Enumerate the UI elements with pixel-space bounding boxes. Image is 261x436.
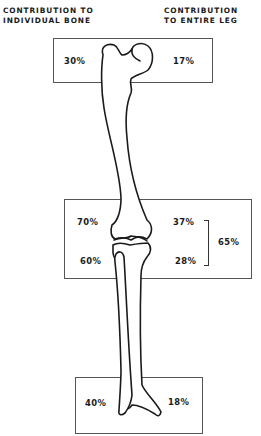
proximal-tibia-individual-pct: 60%	[80, 256, 101, 266]
leg-bones-illustration	[0, 0, 261, 436]
femur-icon	[102, 44, 153, 240]
distal-tibia-individual-pct: 40%	[85, 398, 106, 408]
knee-combined-entire-pct: 65%	[218, 237, 239, 247]
proximal-femur-individual-pct: 30%	[64, 56, 85, 66]
proximal-femur-entire-pct: 17%	[173, 56, 194, 66]
proximal-tibia-entire-pct: 28%	[175, 256, 196, 266]
distal-femur-entire-pct: 37%	[173, 217, 194, 227]
distal-tibia-entire-pct: 18%	[168, 397, 189, 407]
distal-femur-individual-pct: 70%	[77, 217, 98, 227]
knee-combined-bracket	[204, 220, 209, 266]
